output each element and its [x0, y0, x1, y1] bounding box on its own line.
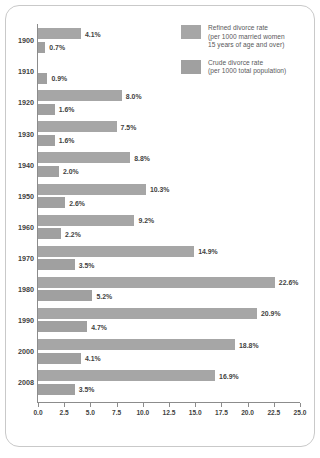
bar-value-label: 2.2%: [65, 230, 81, 237]
bar: 1.6%: [38, 104, 55, 115]
bar-fill: [38, 308, 257, 319]
bar: 14.9%: [38, 246, 194, 257]
bar-fill: [38, 166, 59, 177]
bar-value-label: 0.9%: [51, 75, 67, 82]
bar-value-label: 14.9%: [198, 248, 218, 255]
bar-value-label: 18.8%: [239, 341, 259, 348]
bar-fill: [38, 42, 45, 53]
category-label: 1930: [18, 130, 34, 139]
bar-value-label: 5.2%: [96, 292, 112, 299]
bar: 2.6%: [38, 197, 65, 208]
bar-group: 198022.6%5.2%: [38, 277, 300, 302]
x-axis-tick: [169, 403, 170, 407]
bar-value-label: 20.9%: [261, 310, 281, 317]
bar: 0.7%: [38, 42, 45, 53]
bar-value-label: 22.6%: [279, 279, 299, 286]
bar: 4.7%: [38, 321, 87, 332]
bar-fill: [38, 215, 134, 226]
bar-fill: [38, 184, 146, 195]
category-label: 1960: [18, 223, 34, 232]
bar: 8.0%: [38, 90, 122, 101]
category-label: 1910: [18, 67, 34, 76]
bar-group: 19609.2%2.2%: [38, 215, 300, 240]
bar-fill: [38, 104, 55, 115]
x-axis-tick-label: 10.0: [136, 409, 149, 416]
bar-value-label: 7.5%: [121, 123, 137, 130]
bar: 1.6%: [38, 135, 55, 146]
category-label: 1940: [18, 161, 34, 170]
x-axis-tick: [248, 403, 249, 407]
category-label: 2008: [18, 378, 34, 387]
category-label: 1980: [18, 285, 34, 294]
bar-group: 19100.9%: [38, 59, 300, 84]
bar-group: 195010.3%2.6%: [38, 184, 300, 209]
x-axis-tick: [90, 403, 91, 407]
bar-value-label: 1.6%: [59, 137, 75, 144]
bar-fill: [38, 370, 215, 381]
x-axis-tick: [300, 403, 301, 407]
category-label: 1970: [18, 254, 34, 263]
bar-value-label: 1.6%: [59, 106, 75, 113]
bar: 10.3%: [38, 184, 146, 195]
bar-chart: Refined divorce rate(per 1000 married wo…: [6, 6, 314, 446]
x-axis-tick-label: 2.5: [60, 409, 69, 416]
bar-fill: [38, 90, 122, 101]
bar: 2.0%: [38, 166, 59, 177]
x-axis-tick: [64, 403, 65, 407]
x-axis-tick-label: 5.0: [86, 409, 95, 416]
bar-fill: [38, 384, 75, 395]
bar-value-label: 16.9%: [219, 372, 239, 379]
bar-value-label: 8.8%: [134, 154, 150, 161]
bar-fill: [38, 353, 81, 364]
bar-fill: [38, 277, 275, 288]
bar-fill: [38, 228, 61, 239]
bar-value-label: 2.0%: [63, 168, 79, 175]
category-label: 1990: [18, 316, 34, 325]
bar: 8.8%: [38, 152, 130, 163]
x-axis-tick: [143, 403, 144, 407]
category-label: 1920: [18, 98, 34, 107]
bar-value-label: 2.6%: [69, 199, 85, 206]
bar-group: 200816.9%3.5%: [38, 370, 300, 395]
x-axis-tick-label: 17.5: [215, 409, 228, 416]
bar-group: 19307.5%1.6%: [38, 121, 300, 146]
bar-value-label: 4.7%: [91, 323, 107, 330]
bar: 20.9%: [38, 308, 257, 319]
x-axis-tick: [38, 403, 39, 407]
x-axis-tick-label: 15.0: [189, 409, 202, 416]
x-axis-tick-label: 0.0: [33, 409, 42, 416]
bar: 3.5%: [38, 384, 75, 395]
x-axis-tick: [274, 403, 275, 407]
bar: 5.2%: [38, 290, 92, 301]
bar-fill: [38, 197, 65, 208]
bar: 3.5%: [38, 259, 75, 270]
bar: 7.5%: [38, 121, 117, 132]
bar-fill: [38, 339, 235, 350]
bar-fill: [38, 121, 117, 132]
bar-value-label: 0.7%: [49, 44, 65, 51]
bar: 0.9%: [38, 73, 47, 84]
category-label: 2000: [18, 347, 34, 356]
x-axis-tick: [195, 403, 196, 407]
bar-value-label: 4.1%: [85, 30, 101, 37]
bar-fill: [38, 246, 194, 257]
x-axis-tick-label: 12.5: [163, 409, 176, 416]
x-axis-tick: [117, 403, 118, 407]
x-axis-tick: [221, 403, 222, 407]
category-label: 1950: [18, 192, 34, 201]
category-label: 1900: [18, 36, 34, 45]
bar-fill: [38, 28, 81, 39]
x-axis-tick-label: 22.5: [267, 409, 280, 416]
bar-fill: [38, 152, 130, 163]
bar: 18.8%: [38, 339, 235, 350]
bar-group: 200018.8%4.1%: [38, 339, 300, 364]
bar-fill: [38, 73, 47, 84]
bar: 22.6%: [38, 277, 275, 288]
bar: 16.9%: [38, 370, 215, 381]
bar-group: 19004.1%0.7%: [38, 28, 300, 53]
bar-value-label: 3.5%: [79, 386, 95, 393]
x-axis-tick-label: 20.0: [241, 409, 254, 416]
bar-value-label: 8.0%: [126, 92, 142, 99]
bar-group: 199020.9%4.7%: [38, 308, 300, 333]
bar: 9.2%: [38, 215, 134, 226]
